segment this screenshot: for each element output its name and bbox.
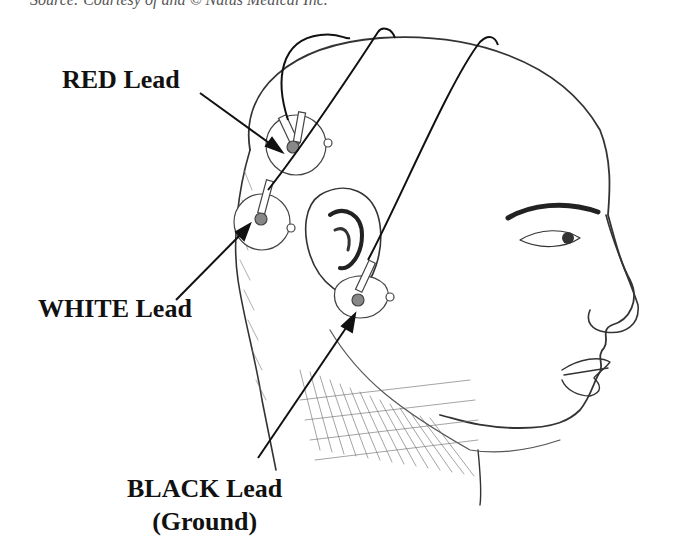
black-lead-label-line1: BLACK Lead — [127, 472, 282, 505]
neck-front — [478, 450, 481, 505]
eyebrow — [508, 205, 598, 218]
black-lead-label: BLACK Lead (Ground) — [127, 472, 282, 538]
red-pointer-arrow — [200, 93, 276, 148]
white-pointer-arrow — [176, 230, 245, 300]
red-lead-label: RED Lead — [62, 65, 180, 95]
white-lead-label: WHITE Lead — [38, 294, 192, 324]
black-lead-wire — [368, 37, 498, 260]
black-lead-label-line2: (Ground) — [127, 505, 282, 538]
red-lead-wire — [282, 34, 350, 120]
white-lead-wire — [268, 29, 395, 190]
black-pointer-arrow — [258, 322, 350, 458]
lips — [562, 359, 610, 396]
